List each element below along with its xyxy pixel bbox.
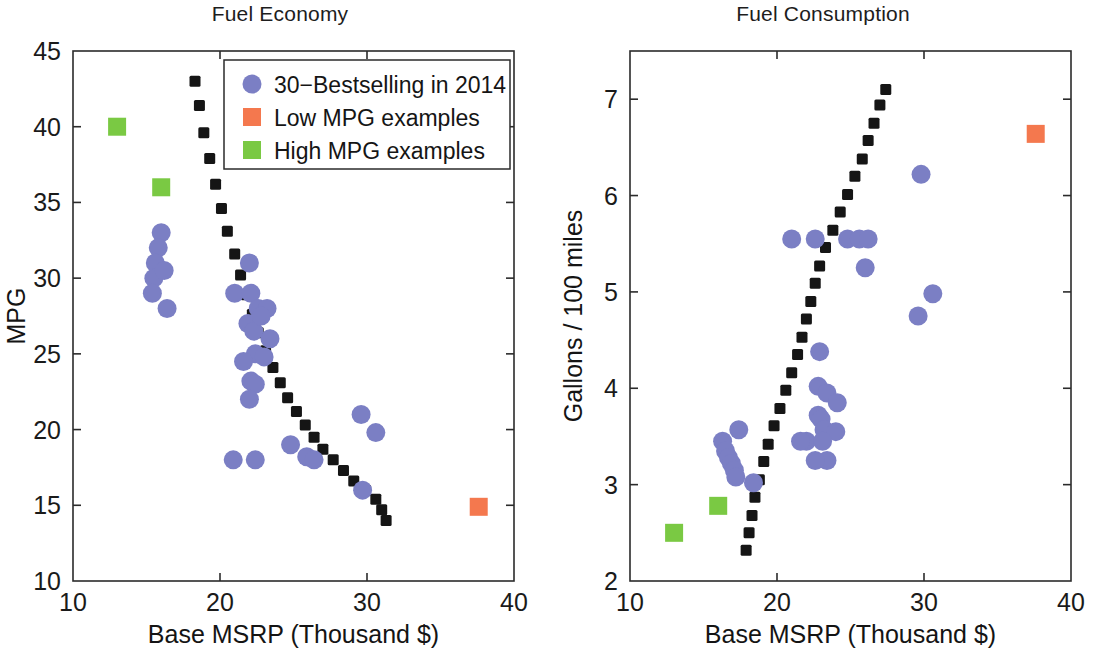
right-ylabel: Gallons / 100 miles (559, 210, 587, 423)
left-point-bestselling (281, 435, 300, 454)
left-point-bestselling (143, 284, 162, 303)
right-ytick-label: 4 (604, 374, 618, 402)
left-point-bestselling (234, 352, 253, 371)
right-trend-dot (810, 278, 821, 289)
right-ytick-label: 6 (604, 182, 618, 210)
legend-label-2: High MPG examples (274, 138, 485, 164)
left-point-bestselling (252, 307, 271, 326)
right-ytick-label: 7 (604, 85, 618, 113)
legend-label-0: 30−Bestselling in 2014 (274, 72, 506, 98)
left-xtick-label: 30 (353, 588, 381, 616)
right-point-bestselling (828, 393, 847, 412)
datapoints-fuel-consumption (665, 125, 1045, 542)
right-trend-dot (796, 332, 807, 343)
right-trend-dot (874, 99, 885, 110)
right-point-bestselling (806, 451, 825, 470)
legend-fuel-economy: 30−Bestselling in 2014Low MPG examplesHi… (224, 60, 510, 169)
right-trend-dot (835, 206, 846, 217)
left-trend-dot (229, 248, 240, 259)
right-point-bestselling (912, 165, 931, 184)
left-trend-dot (194, 100, 205, 111)
left-trend-dot (235, 270, 246, 281)
figure-root: Fuel Economy 102030401015202530354045Bas… (0, 0, 1113, 649)
plot-area-fuel-consumption: 10203040234567Base MSRP (Thousand $)Gall… (557, 0, 1113, 649)
left-ytick-label: 35 (33, 188, 61, 216)
right-axis-box (630, 51, 1071, 581)
left-point-bestselling (155, 261, 174, 280)
legend-label-1: Low MPG examples (274, 105, 480, 131)
right-point-bestselling (909, 307, 928, 326)
legend-marker-high-mpg (243, 141, 261, 159)
left-ytick-label: 45 (33, 37, 61, 65)
left-trend-dot (291, 406, 302, 417)
panel-fuel-consumption: Fuel Consumption 10203040234567Base MSRP… (557, 0, 1113, 649)
right-xlabel: Base MSRP (Thousand $) (705, 620, 996, 648)
right-point-low-mpg (1027, 125, 1045, 143)
left-trend-dot (300, 420, 311, 431)
left-point-high-mpg (152, 178, 170, 196)
left-ytick-label: 30 (33, 264, 61, 292)
left-trend-dot (222, 226, 233, 237)
legend-marker-bestselling (243, 75, 262, 94)
left-point-low-mpg (470, 498, 488, 516)
left-xlabel: Base MSRP (Thousand $) (148, 620, 439, 648)
right-point-bestselling (923, 284, 942, 303)
right-trend-dot (814, 260, 825, 271)
right-trend-dot (741, 545, 752, 556)
right-trend-dot (857, 153, 868, 164)
left-point-bestselling (352, 405, 371, 424)
left-point-bestselling (224, 450, 243, 469)
left-trend-dot (190, 76, 201, 87)
right-point-bestselling (729, 420, 748, 439)
left-xtick-label: 40 (500, 588, 528, 616)
right-trend-dot (842, 189, 853, 200)
left-ytick-label: 40 (33, 113, 61, 141)
left-point-bestselling (305, 450, 324, 469)
right-trend-dot (774, 403, 785, 414)
left-point-bestselling (158, 299, 177, 318)
right-trend-dot (769, 420, 780, 431)
left-point-bestselling (366, 423, 385, 442)
right-trend-dot (827, 225, 838, 236)
left-point-bestselling (225, 284, 244, 303)
left-ytick-label: 15 (33, 491, 61, 519)
left-trend-dot (198, 127, 209, 138)
right-point-bestselling (744, 473, 763, 492)
left-point-high-mpg (108, 118, 126, 136)
right-point-bestselling (859, 229, 878, 248)
left-ylabel: MPG (2, 288, 30, 345)
right-point-bestselling (813, 432, 832, 451)
left-trend-dot (216, 203, 227, 214)
right-ytick-label: 5 (604, 278, 618, 306)
right-trend-dot (758, 456, 769, 467)
right-trend-dot (744, 527, 755, 538)
left-trend-dot (376, 504, 387, 515)
right-point-bestselling (726, 467, 745, 486)
left-trend-dot (381, 515, 392, 526)
right-trend-dot (792, 349, 803, 360)
left-ytick-label: 20 (33, 416, 61, 444)
right-point-bestselling (806, 229, 825, 248)
right-trend-dot (805, 296, 816, 307)
plot-area-fuel-economy: 102030401015202530354045Base MSRP (Thous… (0, 0, 556, 649)
right-trend-dot (869, 118, 880, 129)
right-point-bestselling (782, 229, 801, 248)
legend-marker-low-mpg (243, 108, 261, 126)
left-point-bestselling (255, 347, 274, 366)
panel-fuel-economy: Fuel Economy 102030401015202530354045Bas… (0, 0, 556, 649)
right-point-bestselling (810, 342, 829, 361)
left-trend-dot (328, 454, 339, 465)
right-trend-dot (863, 135, 874, 146)
right-trend-dot (763, 439, 774, 450)
left-trend-dot (204, 153, 215, 164)
right-point-high-mpg (709, 497, 727, 515)
trendline-fuel-consumption (741, 84, 892, 556)
right-point-high-mpg (665, 524, 683, 542)
right-trend-dot (880, 84, 891, 95)
right-xtick-label: 40 (1057, 588, 1085, 616)
right-trend-dot (786, 367, 797, 378)
left-ytick-label: 10 (33, 567, 61, 595)
left-trend-dot (282, 392, 293, 403)
left-point-bestselling (246, 450, 265, 469)
left-trend-dot (338, 465, 349, 476)
